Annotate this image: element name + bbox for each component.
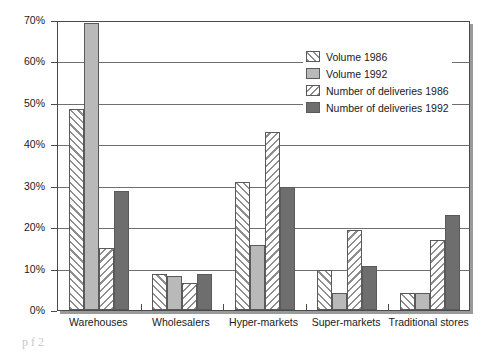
bar bbox=[182, 283, 197, 310]
bar bbox=[415, 293, 430, 310]
legend-swatch-icon bbox=[306, 68, 320, 79]
bar-chart: 0%10%20%30%40%50%60%70% WarehousesWholes… bbox=[0, 0, 504, 354]
x-axis-label-warehouses: Warehouses bbox=[57, 316, 140, 328]
y-tick-label-40: 40% bbox=[0, 138, 45, 150]
legend-label: Number of deliveries 1986 bbox=[326, 85, 449, 97]
y-tick-label-0: 0% bbox=[0, 304, 45, 316]
legend-label: Volume 1992 bbox=[326, 68, 387, 80]
x-axis-label-traditional-stores: Traditional stores bbox=[387, 316, 470, 328]
bar-group bbox=[235, 22, 295, 310]
x-tick-mark bbox=[223, 304, 224, 310]
x-axis-label-hyper-markets: Hyper-markets bbox=[222, 316, 305, 328]
legend-label: Number of deliveries 1992 bbox=[326, 102, 449, 114]
legend-item: Volume 1986 bbox=[306, 48, 449, 65]
bar-group bbox=[152, 22, 212, 310]
bar bbox=[265, 132, 280, 310]
y-tick-label-60: 60% bbox=[0, 55, 45, 67]
legend-item: Volume 1992 bbox=[306, 65, 449, 82]
bar bbox=[332, 293, 347, 310]
bar bbox=[114, 191, 129, 310]
bar bbox=[167, 276, 182, 310]
x-axis-label-wholesalers: Wholesalers bbox=[140, 316, 223, 328]
y-tick-label-20: 20% bbox=[0, 221, 45, 233]
legend-swatch-icon bbox=[306, 102, 320, 113]
y-tick-label-70: 70% bbox=[0, 14, 45, 26]
legend-item: Number of deliveries 1986 bbox=[306, 82, 449, 99]
legend-item: Number of deliveries 1992 bbox=[306, 99, 449, 116]
bar bbox=[445, 215, 460, 310]
x-tick-mark bbox=[388, 304, 389, 310]
legend-label: Volume 1986 bbox=[326, 51, 387, 63]
x-tick-mark bbox=[306, 304, 307, 310]
bar bbox=[250, 245, 265, 310]
y-tick-label-30: 30% bbox=[0, 180, 45, 192]
y-tick-label-10: 10% bbox=[0, 263, 45, 275]
bar bbox=[280, 187, 295, 310]
legend-swatch-icon bbox=[306, 51, 320, 62]
bar bbox=[430, 240, 445, 310]
bar bbox=[197, 274, 212, 310]
bar-group bbox=[69, 22, 129, 310]
legend: Volume 1986Volume 1992Number of deliveri… bbox=[303, 46, 452, 119]
bar bbox=[347, 230, 362, 310]
bar bbox=[84, 23, 99, 310]
bar bbox=[400, 293, 415, 310]
x-tick-mark bbox=[141, 304, 142, 310]
x-axis-label-super-markets: Super-markets bbox=[305, 316, 388, 328]
bar bbox=[152, 274, 167, 310]
y-tick-mark-0 bbox=[51, 311, 57, 312]
legend-swatch-icon bbox=[306, 85, 320, 96]
scan-artifact-text: p f 2 bbox=[22, 335, 44, 350]
bar bbox=[235, 182, 250, 310]
bar bbox=[317, 270, 332, 310]
y-tick-label-50: 50% bbox=[0, 97, 45, 109]
bar bbox=[69, 109, 84, 310]
bar bbox=[362, 266, 377, 310]
bar bbox=[99, 248, 114, 310]
